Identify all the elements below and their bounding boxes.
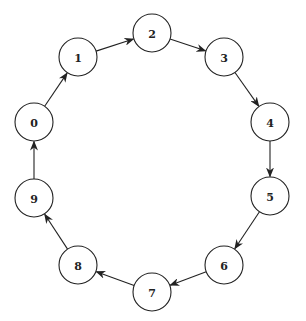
node-4: 4 xyxy=(251,103,289,141)
node-label: 2 xyxy=(148,28,156,41)
node-6: 6 xyxy=(205,246,243,284)
node-label: 3 xyxy=(220,52,228,65)
edge-7-to-8 xyxy=(96,272,134,286)
node-label: 4 xyxy=(266,117,274,130)
node-0: 0 xyxy=(15,103,53,141)
nodes-layer: 0123456789 xyxy=(15,14,289,311)
node-8: 8 xyxy=(59,246,97,284)
node-1: 1 xyxy=(59,38,97,76)
edge-0-to-1 xyxy=(45,73,67,106)
node-label: 8 xyxy=(74,260,82,273)
node-label: 5 xyxy=(266,191,274,204)
edge-1-to-2 xyxy=(96,39,133,51)
node-label: 9 xyxy=(30,193,38,206)
node-5: 5 xyxy=(251,177,289,215)
node-9: 9 xyxy=(15,179,53,217)
edge-5-to-6 xyxy=(235,212,260,249)
node-label: 7 xyxy=(148,287,156,300)
node-label: 6 xyxy=(220,260,228,273)
edge-6-to-7 xyxy=(170,272,206,285)
edge-3-to-4 xyxy=(235,73,259,107)
node-7: 7 xyxy=(133,273,171,311)
node-3: 3 xyxy=(205,38,243,76)
node-label: 0 xyxy=(30,117,38,130)
cycle-diagram: 0123456789 xyxy=(0,0,306,321)
edge-2-to-3 xyxy=(170,39,205,51)
node-2: 2 xyxy=(133,14,171,52)
edge-8-to-9 xyxy=(45,214,68,249)
node-label: 1 xyxy=(74,52,82,65)
